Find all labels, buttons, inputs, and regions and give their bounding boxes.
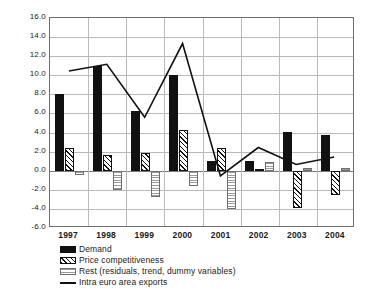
gridline-vertical (241, 18, 242, 226)
legend-item-label: Intra euro area exports (79, 278, 167, 287)
y-axis-tick-label: 6.0 (2, 108, 46, 116)
gridline-horizontal (50, 209, 353, 210)
x-axis: 19971998199920002001200220032004 (49, 230, 354, 244)
y-axis-tick-label: 0.0 (2, 166, 46, 174)
solid-black-icon (60, 246, 76, 253)
gridline-vertical (279, 18, 280, 226)
bar-demand-2003 (283, 132, 292, 171)
y-axis-tick-label: 12.0 (2, 51, 46, 59)
bar-demand-1998 (93, 66, 102, 171)
x-axis-tick-label: 1999 (125, 230, 163, 240)
y-axis-tick-label: 4.0 (2, 128, 46, 136)
bar-price-2001 (217, 148, 226, 171)
zero-baseline (50, 171, 353, 172)
x-axis-tick-label: 2000 (163, 230, 201, 240)
diagonal-hatch-icon (60, 257, 76, 264)
line-icon (60, 279, 76, 286)
legend-item: Price competitiveness (60, 255, 360, 266)
bar-demand-1997 (55, 94, 64, 170)
bar-price-1999 (141, 153, 150, 171)
chart-container: 16.014.012.010.08.06.04.02.00.0-2.0-4.0-… (0, 0, 367, 293)
x-axis-tick-label: 2002 (240, 230, 278, 240)
y-axis-tick-label: 8.0 (2, 89, 46, 97)
legend-item: Intra euro area exports (60, 277, 360, 288)
x-axis-tick-label: 2003 (278, 230, 316, 240)
gridline-vertical (164, 18, 165, 226)
bar-price-2000 (179, 130, 188, 171)
x-axis-tick-label: 2004 (316, 230, 354, 240)
gridline-vertical (317, 18, 318, 226)
bar-rest-2002 (265, 162, 274, 171)
bar-price-2002 (255, 169, 264, 171)
bar-price-2003 (293, 171, 302, 208)
legend-item: Rest (residuals, trend, dummy variables) (60, 266, 360, 277)
bar-rest-1997 (75, 171, 84, 176)
bar-rest-2001 (227, 171, 236, 209)
y-axis-tick-label: 2.0 (2, 147, 46, 155)
horizontal-hatch-icon (60, 268, 76, 275)
legend-item-label: Rest (residuals, trend, dummy variables) (79, 267, 236, 276)
y-axis-tick-label: -6.0 (2, 223, 46, 231)
bar-price-1998 (103, 155, 112, 171)
bar-rest-1998 (113, 171, 122, 190)
x-axis-tick-label: 1998 (87, 230, 125, 240)
bar-demand-2001 (207, 161, 216, 171)
bar-demand-2000 (169, 75, 178, 170)
bar-rest-2004 (341, 168, 350, 171)
y-axis-tick-label: 14.0 (2, 32, 46, 40)
gridline-vertical (88, 18, 89, 226)
gridline-horizontal (50, 37, 353, 38)
plot-area (49, 17, 354, 227)
chart-legend: DemandPrice competitivenessRest (residua… (60, 244, 360, 288)
legend-item: Demand (60, 244, 360, 255)
x-axis-tick-label: 2001 (202, 230, 240, 240)
bar-demand-2002 (245, 161, 254, 171)
y-axis: 16.014.012.010.08.06.04.02.00.0-2.0-4.0-… (0, 17, 46, 227)
gridline-horizontal (50, 56, 353, 57)
legend-item-label: Price competitiveness (79, 256, 164, 265)
bar-demand-2004 (321, 135, 330, 170)
y-axis-tick-label: 10.0 (2, 70, 46, 78)
x-axis-tick-label: 1997 (49, 230, 87, 240)
y-axis-tick-label: 16.0 (2, 13, 46, 21)
bar-price-2004 (331, 171, 340, 195)
y-axis-tick-label: -4.0 (2, 204, 46, 212)
y-axis-tick-label: -2.0 (2, 185, 46, 193)
gridline-vertical (126, 18, 127, 226)
gridline-vertical (203, 18, 204, 226)
bar-rest-2000 (189, 171, 198, 186)
legend-item-label: Demand (79, 245, 112, 254)
bar-price-1997 (65, 148, 74, 171)
gridline-horizontal (50, 190, 353, 191)
bar-rest-1999 (151, 171, 160, 198)
bar-rest-2003 (303, 168, 312, 171)
bar-demand-1999 (131, 111, 140, 171)
